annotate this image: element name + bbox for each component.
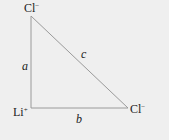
triangle-diagram: Cl− a c Li+ b Cl− <box>0 0 169 140</box>
side-c-line <box>31 16 128 108</box>
ion-charge: + <box>24 106 28 114</box>
vertex-right-label: Cl− <box>130 103 145 115</box>
vertex-top-label: Cl− <box>24 2 39 14</box>
ion-symbol: Li <box>13 105 24 119</box>
side-b-label: b <box>76 113 82 125</box>
side-a-label: a <box>22 60 28 72</box>
ion-symbol: Cl <box>24 1 35 15</box>
ion-symbol: Cl <box>130 102 141 116</box>
ion-charge: − <box>141 103 145 111</box>
side-c-label: c <box>81 48 86 60</box>
vertex-right-angle-label: Li+ <box>13 106 28 118</box>
ion-charge: − <box>35 2 39 10</box>
